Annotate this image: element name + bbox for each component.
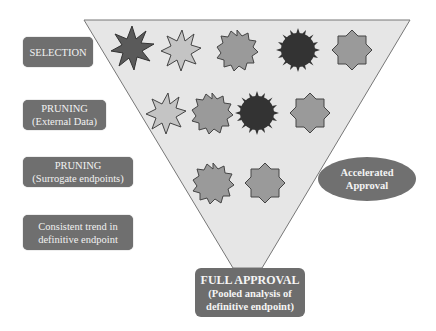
stage-pruning-external-title: PRUNING <box>41 102 88 115</box>
stage-consistent-trend-line1: Consistent trend in <box>38 220 117 233</box>
candidate-star8-mid-icon <box>290 93 330 133</box>
full-approval-box: FULL APPROVAL (Pooled analysis of defini… <box>195 268 305 317</box>
stage-selection-box: SELECTION <box>23 37 93 67</box>
accelerated-approval-line1: Accelerated <box>340 166 393 179</box>
stage-consistent-trend-line2: definitive endpoint <box>38 233 118 246</box>
stage-pruning-surrogate-subtitle: (Surrogate endpoints) <box>32 172 123 185</box>
candidate-sunburst-dark-icon <box>235 91 279 135</box>
stage-pruning-surrogate-title: PRUNING <box>55 159 102 172</box>
candidate-star8-mid-icon <box>245 163 285 203</box>
full-approval-subtitle-line1: (Pooled analysis of <box>208 287 291 300</box>
stage-consistent-trend-box: Consistent trend in definitive endpoint <box>23 215 133 250</box>
accelerated-approval-line2: Approval <box>346 179 388 192</box>
accelerated-approval-ellipse: Accelerated Approval <box>318 157 416 201</box>
stage-pruning-surrogate-box: PRUNING (Surrogate endpoints) <box>23 157 133 187</box>
stage-selection-label: SELECTION <box>29 46 86 59</box>
candidate-star8-mid-icon <box>332 30 372 70</box>
full-approval-title: FULL APPROVAL <box>201 273 300 287</box>
drug-development-funnel-diagram: SELECTION PRUNING (External Data) PRUNIN… <box>0 0 436 331</box>
stage-pruning-external-subtitle: (External Data) <box>32 115 97 128</box>
stage-pruning-external-box: PRUNING (External Data) <box>23 100 106 130</box>
candidate-sunburst-dark-icon <box>276 28 320 72</box>
full-approval-subtitle-line2: definitive endpoint) <box>206 300 294 313</box>
